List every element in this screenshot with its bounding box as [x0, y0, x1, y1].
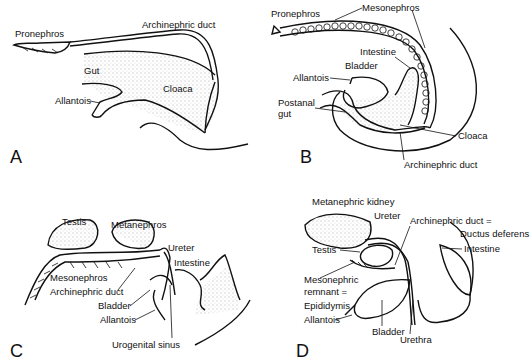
label-testis-c: Testis [62, 216, 87, 227]
label-gut-a: Gut [84, 65, 100, 76]
label-metanephric-kidney-d: Metanephric kidney [312, 196, 395, 207]
panel-letter-d: D [296, 341, 309, 361]
label-allantois-c: Allantois [100, 314, 136, 325]
label-postanal-b: Postanal [278, 97, 315, 108]
label-cloaca-b: Cloaca [458, 130, 488, 141]
panel-letter-b: B [300, 147, 312, 167]
diagram-canvas: Pronephros Archinephric duct Gut Cloaca … [0, 0, 532, 361]
panel-c: Testis Metanephros Ureter Intestine Meso… [10, 216, 250, 361]
label-archinephric-duct-d: Archinephric duct = [410, 215, 492, 226]
label-archinephric-duct-a: Archinephric duct [142, 19, 216, 30]
label-bladder-b: Bladder [345, 60, 378, 71]
label-intestine-c: Intestine [174, 257, 210, 268]
label-pronephros-b: Pronephros [271, 8, 320, 19]
panel-d: Metanephric kidney Ureter Archinephric d… [296, 196, 529, 361]
label-allantois-a: Allantois [55, 95, 91, 106]
label-pronephros-a: Pronephros [15, 28, 64, 39]
label-remnant-d: remnant = [304, 286, 347, 297]
label-bladder-c: Bladder [98, 300, 131, 311]
label-epididymis-d: Epididymis [304, 300, 350, 311]
label-allantois-b: Allantois [293, 72, 329, 83]
label-allantois-d: Allantois [304, 314, 340, 325]
label-metanephros-c: Metanephros [111, 219, 167, 230]
label-archinephric-duct-b: Archinephric duct [404, 159, 478, 170]
label-urogenital-sinus-c: Urogenital sinus [112, 339, 180, 350]
panel-letter-a: A [10, 147, 22, 167]
pronephros-shape [14, 42, 70, 53]
label-intestine-b: Intestine [360, 46, 396, 57]
label-mesonephros-c: Mesonephros [50, 272, 108, 283]
panel-b: Pronephros Mesonephros Intestine Bladder… [271, 2, 488, 170]
label-ureter-d: Ureter [374, 210, 400, 221]
label-mesonephric-remnant-d: Mesonephric [304, 274, 359, 285]
label-postanal-gut-b: gut [278, 108, 292, 119]
testis-shape-d [360, 245, 392, 266]
panel-letter-c: C [10, 341, 23, 361]
label-mesonephros-b: Mesonephros [362, 2, 420, 13]
label-urethra-d: Urethra [400, 334, 432, 345]
label-ductus-deferens-d: Ductus deferens [460, 228, 529, 239]
label-intestine-d: Intestine [464, 243, 500, 254]
label-testis-d: Testis [312, 244, 337, 255]
label-cloaca-a: Cloaca [163, 83, 193, 94]
label-archinephric-duct-c: Archinephric duct [50, 286, 124, 297]
label-ureter-c: Ureter [168, 242, 194, 253]
panel-a: Pronephros Archinephric duct Gut Cloaca … [10, 19, 248, 167]
